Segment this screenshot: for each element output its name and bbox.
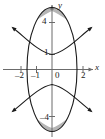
x-tick-label-neg1: –1 (31, 71, 40, 80)
x-axis-arrow (89, 68, 94, 72)
graph-figure: y x 4 1 0 –4 –2 –1 2 (0, 0, 105, 139)
y-tick-label-neg4: –4 (40, 113, 49, 122)
y-axis-label: y (58, 1, 62, 10)
y-tick-label-1: 1 (44, 48, 49, 57)
origin-label: 0 (55, 71, 60, 80)
x-axis-label: x (95, 63, 99, 72)
y-tick-label-4: 4 (42, 17, 47, 26)
x-tick-label-2: 2 (81, 71, 86, 80)
x-tick-label-neg2: –2 (15, 71, 24, 80)
